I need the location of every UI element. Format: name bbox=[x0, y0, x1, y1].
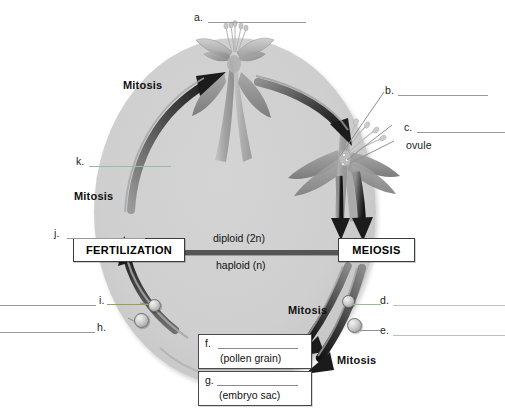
stage-box-meiosis[interactable]: MEIOSIS bbox=[338, 238, 415, 262]
leader-line-e bbox=[359, 330, 381, 331]
gamete-bead-h bbox=[134, 313, 149, 328]
answer-blank-a[interactable] bbox=[208, 22, 306, 23]
answer-blank-e[interactable] bbox=[393, 335, 505, 336]
label-letter-d: d. bbox=[380, 294, 389, 306]
answer-box-f-letter: f. bbox=[205, 337, 211, 349]
gamete-bead-i bbox=[148, 299, 161, 312]
spore-bead-d bbox=[342, 295, 355, 308]
answer-blank-j[interactable] bbox=[67, 238, 145, 239]
answer-blank-i[interactable] bbox=[0, 305, 96, 306]
answer-box-g-blank[interactable] bbox=[217, 385, 298, 386]
sporophyte-flower-top bbox=[192, 21, 274, 163]
mitosis-label-top-left: Mitosis bbox=[123, 79, 162, 91]
mitosis-label-bottom-right: Mitosis bbox=[337, 354, 376, 366]
answer-blank-c[interactable] bbox=[417, 132, 505, 133]
label-letter-e: e. bbox=[380, 324, 389, 336]
mitosis-label-mid-left: Mitosis bbox=[74, 190, 113, 202]
answer-box-f-blank[interactable] bbox=[218, 348, 298, 349]
label-letter-k: k. bbox=[76, 155, 84, 167]
leader-line-d bbox=[353, 304, 381, 305]
answer-blank-b[interactable] bbox=[398, 95, 488, 96]
leader-line-i bbox=[107, 304, 149, 305]
label-letter-b: b. bbox=[385, 84, 394, 96]
answer-box-g-letter: g. bbox=[205, 374, 214, 386]
answer-blank-h[interactable] bbox=[0, 332, 95, 333]
plant-life-cycle-diagram: diploid (2n) haploid (n) FERTILIZATION M… bbox=[0, 0, 505, 417]
flower-closeup-right bbox=[288, 118, 400, 222]
answer-blank-d[interactable] bbox=[393, 305, 505, 306]
label-letter-j: j. bbox=[54, 227, 59, 239]
ploidy-lower-label: haploid (n) bbox=[216, 259, 266, 271]
label-letter-i: i. bbox=[99, 294, 104, 306]
ploidy-divider-bar bbox=[178, 250, 344, 255]
answer-blank-k[interactable] bbox=[89, 166, 171, 167]
mitosis-label-mid-right: Mitosis bbox=[288, 304, 327, 316]
answer-box-g-hint: (embryo sac) bbox=[219, 389, 280, 401]
label-letter-c: c. bbox=[404, 121, 412, 133]
ploidy-upper-label: diploid (2n) bbox=[213, 232, 265, 244]
answer-box-f-hint: (pollen grain) bbox=[220, 352, 281, 364]
label-letter-a: a. bbox=[194, 11, 203, 23]
stage-box-fertilization[interactable]: FERTILIZATION bbox=[73, 238, 185, 262]
label-ovule: ovule bbox=[406, 139, 432, 151]
label-letter-h: h. bbox=[97, 321, 106, 333]
